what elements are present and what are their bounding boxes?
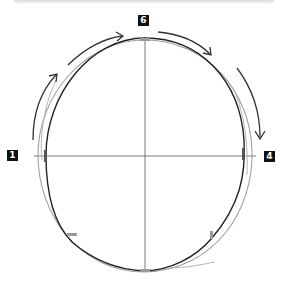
lower-left-marker [67, 233, 77, 236]
step-label-6: 6 [138, 15, 149, 26]
lower-right-marker [210, 231, 213, 239]
arrow-top-left [68, 32, 123, 65]
bottom-marker [140, 269, 150, 272]
arrow-left-upward [33, 74, 57, 140]
arrow-top-right [158, 32, 211, 55]
head-outline-diagram [0, 0, 288, 290]
step-label-1: 1 [7, 150, 18, 161]
step-label-4: 4 [264, 151, 275, 162]
right-marker [242, 148, 245, 160]
top-marker [140, 38, 150, 41]
left-marker [44, 150, 47, 162]
